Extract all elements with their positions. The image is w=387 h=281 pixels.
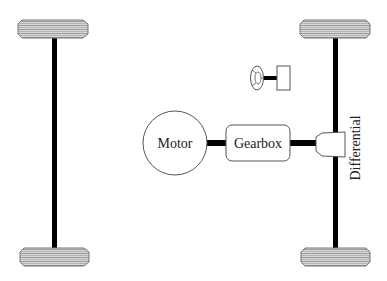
wheel-front-right [300, 20, 370, 38]
steering-wheel-icon [251, 66, 264, 90]
gearbox-label: Gearbox [234, 136, 282, 151]
differential: Differential [316, 115, 363, 180]
left-axle [52, 37, 57, 248]
motor: Motor [143, 111, 207, 175]
motor-label: Motor [158, 136, 193, 151]
steering-box [277, 66, 290, 90]
wheel-rear-left [20, 248, 89, 266]
motor-gearbox-shaft [207, 140, 227, 146]
steering-column [262, 76, 278, 80]
gearbox-differential-shaft [290, 140, 316, 146]
steering-assembly [251, 66, 291, 90]
wheel-front-left [18, 20, 88, 38]
wheel-rear-right [301, 248, 370, 266]
differential-label: Differential [348, 115, 363, 180]
drivetrain-diagram: Motor Gearbox Differential [0, 0, 387, 281]
gearbox: Gearbox [226, 125, 290, 161]
